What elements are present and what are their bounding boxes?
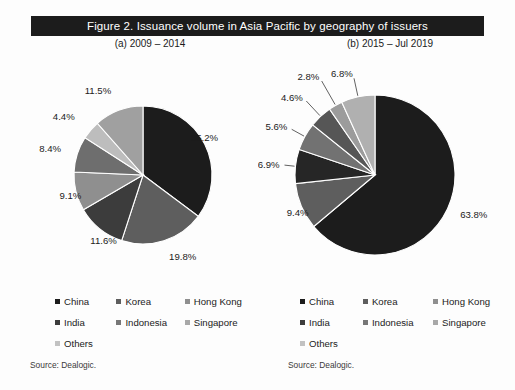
legend-item-indonesia: Indonesia bbox=[116, 317, 184, 328]
legend-swatch-icon bbox=[300, 320, 305, 325]
pie-chart-panel-b: 63.8%9.4%6.9%5.6%4.6%2.8%6.8% bbox=[258, 54, 510, 294]
pie-chart-panel-a: 35.2%19.8%11.6%9.1%8.4%4.4%11.5% bbox=[10, 54, 258, 294]
legend-item-india: India bbox=[55, 317, 116, 328]
legend-swatch-icon bbox=[300, 299, 305, 304]
legend-item-indonesia: Indonesia bbox=[363, 317, 433, 328]
pie-value-label-singapore: 2.8% bbox=[297, 71, 319, 82]
pie-label-leader-line bbox=[306, 101, 320, 116]
legend-item-label: China bbox=[309, 296, 334, 307]
source-note-b: Source: Dealogic. bbox=[288, 360, 354, 370]
figure-container: Figure 2. Issuance volume in Asia Pacifi… bbox=[0, 0, 515, 390]
pie-value-label-india: 5.6% bbox=[265, 121, 287, 132]
legend-item-label: Korea bbox=[125, 296, 151, 307]
legend-swatch-icon bbox=[55, 341, 60, 346]
pie-value-label-india: 9.1% bbox=[60, 190, 82, 201]
legend-item-label: Others bbox=[64, 338, 93, 349]
pie-value-label-korea: 9.4% bbox=[287, 207, 309, 218]
source-note-a: Source: Dealogic. bbox=[30, 360, 96, 370]
legend-item-label: Singapore bbox=[194, 317, 238, 328]
legend-swatch-icon bbox=[433, 320, 438, 325]
legend-swatch-icon bbox=[185, 299, 190, 304]
legend-swatch-icon bbox=[55, 299, 60, 304]
legend-item-singapore: Singapore bbox=[185, 317, 255, 328]
legend-row: IndiaIndonesiaSingapore bbox=[55, 317, 255, 338]
pie-value-label-korea: 19.8% bbox=[169, 251, 197, 262]
legend-swatch-icon bbox=[363, 299, 368, 304]
legend-swatch-icon bbox=[433, 299, 438, 304]
legend-item-others: Others bbox=[300, 338, 363, 349]
legend-item-label: India bbox=[64, 317, 85, 328]
panel-a-subtitle: (a) 2009 – 2014 bbox=[60, 38, 240, 49]
legend-swatch-icon bbox=[363, 320, 368, 325]
pie-value-label-indonesia: 8.4% bbox=[39, 143, 61, 154]
legend-row: IndiaIndonesiaSingapore bbox=[300, 317, 505, 338]
legend-swatch-icon bbox=[300, 341, 305, 346]
legend-swatch-icon bbox=[116, 320, 121, 325]
legend-row: ChinaKoreaHong Kong bbox=[55, 296, 255, 317]
pie-value-label-china: 35.2% bbox=[191, 132, 219, 143]
pie-value-label-hong-kong: 6.9% bbox=[258, 159, 280, 170]
pie-label-leader-line bbox=[285, 165, 295, 166]
legend-row: ChinaKoreaHong Kong bbox=[300, 296, 505, 317]
pie-label-leader-line bbox=[292, 129, 304, 136]
legend-item-label: Indonesia bbox=[125, 317, 167, 328]
legend-row: Others bbox=[55, 338, 255, 359]
pie-value-label-indonesia: 4.6% bbox=[281, 92, 303, 103]
pie-value-label-china: 63.8% bbox=[460, 209, 488, 220]
figure-title: Figure 2. Issuance volume in Asia Pacifi… bbox=[87, 20, 428, 32]
legend-panel-a: ChinaKoreaHong KongIndiaIndonesiaSingapo… bbox=[55, 296, 255, 359]
pie-value-label-others: 11.5% bbox=[85, 85, 112, 96]
legend-swatch-icon bbox=[185, 320, 190, 325]
legend-swatch-icon bbox=[116, 299, 121, 304]
legend-panel-b: ChinaKoreaHong KongIndiaIndonesiaSingapo… bbox=[300, 296, 505, 359]
legend-item-singapore: Singapore bbox=[433, 317, 505, 328]
pie-label-leader-line bbox=[354, 78, 358, 96]
pie-label-leader-line bbox=[322, 81, 335, 105]
legend-item-china: China bbox=[55, 296, 116, 307]
legend-item-label: Korea bbox=[372, 296, 398, 307]
figure-title-bar: Figure 2. Issuance volume in Asia Pacifi… bbox=[31, 16, 484, 36]
pie-value-label-others: 6.8% bbox=[331, 68, 353, 79]
pie-value-label-singapore: 4.4% bbox=[53, 111, 75, 122]
legend-item-india: India bbox=[300, 317, 363, 328]
legend-row: Others bbox=[300, 338, 505, 359]
legend-item-label: India bbox=[309, 317, 330, 328]
pie-chart-a-svg: 35.2%19.8%11.6%9.1%8.4%4.4%11.5% bbox=[10, 54, 258, 294]
legend-item-korea: Korea bbox=[116, 296, 184, 307]
pie-value-label-hong-kong: 11.6% bbox=[90, 235, 117, 246]
legend-item-others: Others bbox=[55, 338, 116, 349]
legend-item-label: Singapore bbox=[442, 317, 486, 328]
legend-item-hong-kong: Hong Kong bbox=[433, 296, 505, 307]
legend-item-label: Others bbox=[309, 338, 338, 349]
legend-item-label: China bbox=[64, 296, 89, 307]
pie-chart-b-svg: 63.8%9.4%6.9%5.6%4.6%2.8%6.8% bbox=[258, 54, 510, 294]
legend-item-label: Indonesia bbox=[372, 317, 414, 328]
legend-swatch-icon bbox=[55, 320, 60, 325]
legend-item-label: Hong Kong bbox=[442, 296, 490, 307]
legend-item-label: Hong Kong bbox=[194, 296, 242, 307]
legend-item-hong-kong: Hong Kong bbox=[185, 296, 255, 307]
legend-item-china: China bbox=[300, 296, 363, 307]
panel-b-subtitle: (b) 2015 – Jul 2019 bbox=[300, 38, 480, 49]
legend-item-korea: Korea bbox=[363, 296, 433, 307]
